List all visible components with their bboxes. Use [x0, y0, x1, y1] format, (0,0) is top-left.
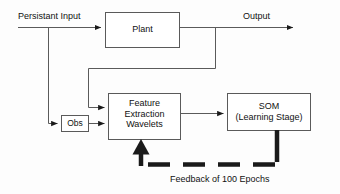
block-plant-label: Plant [105, 24, 180, 35]
block-diagram: Plant Obs Feature Extraction Wavelets SO… [0, 0, 340, 194]
block-feature-extraction-label: Feature Extraction Wavelets [108, 98, 181, 130]
output-signal-label: Output [243, 11, 270, 22]
input-signal-label: Persistant Input [18, 11, 81, 22]
feedback-arrowhead-icon [133, 139, 150, 155]
feedback-path-label: Feedback of 100 Epochs [170, 174, 270, 185]
block-obs-label: Obs [61, 118, 89, 129]
block-som-label: SOM (Learning Stage) [227, 101, 311, 122]
